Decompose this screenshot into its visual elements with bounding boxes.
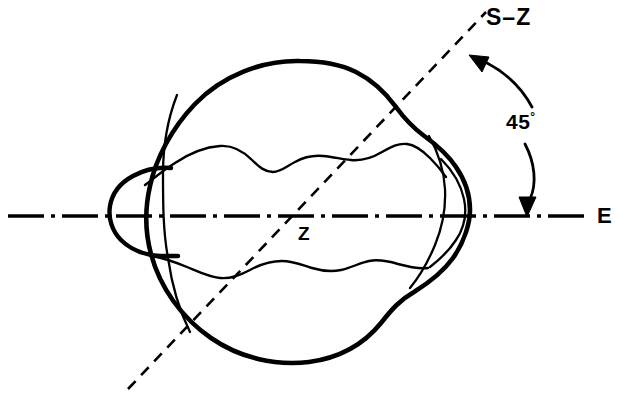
angle-value: 45 [506, 110, 530, 133]
left-lobe-outline [109, 168, 178, 256]
arrow-head-icon [519, 197, 536, 217]
inner-right-boundary-arc [410, 136, 445, 288]
inclined-axis-sz [128, 12, 486, 389]
angle-arc-lower [519, 144, 536, 217]
upper-wavy-interior-curve [145, 144, 446, 185]
label-sz-axis: S–Z [486, 6, 531, 29]
label-horizontal-axis: E [597, 205, 612, 227]
label-angle-measure: 45° [506, 111, 536, 132]
lower-wavy-interior-curve [152, 256, 428, 278]
label-center-point: Z [298, 224, 310, 243]
arrow-head-icon [469, 55, 489, 72]
diagram-svg [0, 0, 623, 404]
diagram-canvas: S–Z 45° E Z [0, 0, 623, 404]
degree-symbol: ° [530, 110, 535, 124]
angle-arc-upper [469, 55, 532, 107]
